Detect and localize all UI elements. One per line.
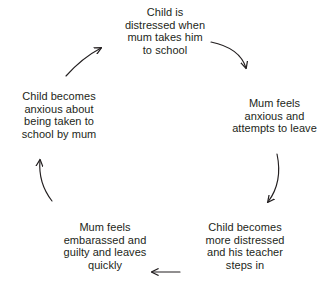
arrow-bottom-left-to-left: [40, 160, 52, 201]
arrow-left-to-top: [66, 48, 101, 76]
cycle-node-bottom-left: Mum feels embarassed and guilty and leav…: [53, 221, 157, 271]
arrow-right-to-bottom-right: [268, 154, 279, 202]
cycle-node-left: Child becomes anxious about being taken …: [8, 90, 110, 140]
cycle-diagram: Child is distressed when mum takes him t…: [0, 0, 325, 297]
cycle-node-top: Child is distressed when mum takes him t…: [107, 6, 223, 56]
cycle-node-right: Mum feels anxious and attempts to leave: [224, 97, 325, 135]
cycle-node-bottom-right: Child becomes more distressed and his te…: [193, 221, 297, 271]
